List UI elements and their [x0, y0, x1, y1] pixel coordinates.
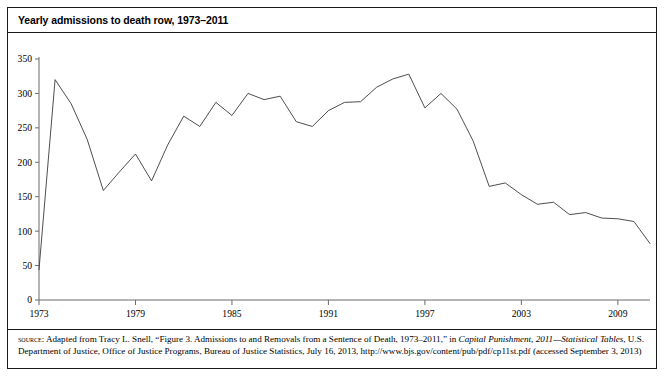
figure-title-bar: Yearly admissions to death row, 1973–201… — [8, 8, 656, 33]
data-line-admissions — [39, 74, 650, 270]
y-axis-tick-label: 0 — [27, 294, 32, 305]
x-axis-tick-label: 2003 — [512, 308, 531, 319]
x-axis-tick-label: 2009 — [608, 308, 627, 319]
y-axis-tick-label: 200 — [18, 157, 33, 168]
page-title: Yearly admissions to death row, 1973–201… — [8, 14, 228, 26]
x-axis-tick-label: 1997 — [415, 308, 434, 319]
y-axis-tick-label: 350 — [18, 53, 33, 64]
figure-container: Yearly admissions to death row, 1973–201… — [0, 0, 664, 376]
x-axis-tick-label: 1979 — [126, 308, 145, 319]
x-axis: 1973197919851991199720032009 — [29, 300, 650, 319]
x-axis-tick-label: 1991 — [319, 308, 338, 319]
data-series-group — [39, 74, 650, 270]
x-axis-tick-label: 1973 — [29, 308, 48, 319]
x-axis-tick-label: 1985 — [222, 308, 241, 319]
y-axis: 050100150200250300350 — [18, 53, 39, 305]
chart-plot-area: 050100150200250300350 197319791985199119… — [8, 34, 656, 328]
line-chart-svg: 050100150200250300350 197319791985199119… — [8, 34, 656, 328]
y-axis-tick-label: 150 — [18, 191, 33, 202]
source-text-italic: Capital Punishment, 2011—Statistical Tab… — [459, 334, 624, 344]
y-axis-tick-label: 50 — [22, 260, 32, 271]
source-note-text: source: Adapted from Tracy L. Snell, “Fi… — [18, 334, 646, 357]
y-axis-tick-label: 250 — [18, 122, 33, 133]
source-note-block: source: Adapted from Tracy L. Snell, “Fi… — [8, 329, 656, 368]
y-axis-tick-label: 300 — [18, 88, 33, 99]
source-text-part-1: Adapted from Tracy L. Snell, “Figure 3. … — [44, 334, 458, 344]
y-axis-tick-label: 100 — [18, 226, 33, 237]
source-label: source: — [18, 334, 44, 344]
